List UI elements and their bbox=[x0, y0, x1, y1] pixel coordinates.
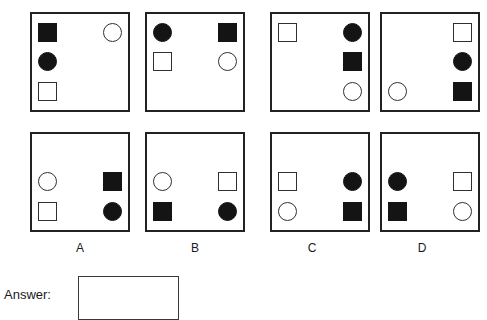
cell-r1c1 bbox=[153, 138, 195, 167]
option-label-b: B bbox=[175, 240, 215, 256]
open-circle-r3c1 bbox=[278, 202, 297, 221]
cell-r3c1 bbox=[278, 77, 320, 106]
cell-r3c1 bbox=[38, 77, 80, 106]
open-circle-r1c2 bbox=[103, 23, 122, 42]
cell-r3c2 bbox=[195, 197, 237, 226]
option-panel-c-grid bbox=[272, 134, 368, 230]
empty-cell-r3c2 bbox=[218, 82, 237, 101]
cell-r2c1 bbox=[153, 167, 195, 196]
answer-label: Answer: bbox=[4, 287, 51, 303]
cell-r3c1 bbox=[388, 77, 430, 106]
cell-r1c2 bbox=[195, 18, 237, 47]
question-panel-3 bbox=[270, 12, 370, 112]
cell-r3c2 bbox=[430, 197, 472, 226]
open-square-r2c2 bbox=[218, 172, 237, 191]
cell-r2c2 bbox=[320, 167, 362, 196]
cell-r1c1 bbox=[38, 138, 80, 167]
empty-cell-r3c2 bbox=[103, 82, 122, 101]
empty-cell-r1c1 bbox=[388, 23, 407, 42]
empty-cell-r1c1 bbox=[38, 143, 57, 162]
option-panel-a-grid bbox=[32, 134, 128, 230]
open-circle-r2c1 bbox=[153, 172, 172, 191]
cell-r2c1 bbox=[278, 167, 320, 196]
cell-r2c1 bbox=[153, 47, 195, 76]
filled-square-r3c2 bbox=[343, 202, 362, 221]
open-circle-r3c2 bbox=[343, 82, 362, 101]
open-circle-r3c2 bbox=[453, 202, 472, 221]
option-panel-c[interactable] bbox=[270, 132, 370, 232]
cell-r1c2 bbox=[80, 18, 122, 47]
cell-r3c2 bbox=[195, 77, 237, 106]
cell-r1c2 bbox=[430, 138, 472, 167]
cell-r2c1 bbox=[278, 47, 320, 76]
cell-r1c2 bbox=[320, 18, 362, 47]
cell-r3c1 bbox=[153, 197, 195, 226]
cell-r3c1 bbox=[278, 197, 320, 226]
option-panel-d[interactable] bbox=[380, 132, 480, 232]
filled-square-r3c2 bbox=[453, 82, 472, 101]
open-square-r2c1 bbox=[278, 172, 297, 191]
filled-circle-r2c1 bbox=[388, 172, 407, 191]
filled-circle-r2c1 bbox=[38, 52, 57, 71]
open-square-r3c1 bbox=[38, 202, 57, 221]
cell-r2c1 bbox=[38, 47, 80, 76]
option-panel-b[interactable] bbox=[145, 132, 245, 232]
empty-cell-r2c1 bbox=[388, 52, 407, 71]
cell-r3c1 bbox=[38, 197, 80, 226]
filled-circle-r3c2 bbox=[103, 202, 122, 221]
empty-cell-r1c2 bbox=[453, 143, 472, 162]
answer-input-box[interactable] bbox=[78, 276, 179, 320]
question-panel-1-grid bbox=[32, 14, 128, 110]
empty-cell-r1c1 bbox=[153, 143, 172, 162]
cell-r1c2 bbox=[430, 18, 472, 47]
question-panel-2 bbox=[145, 12, 245, 112]
cell-r1c2 bbox=[80, 138, 122, 167]
option-label-a: A bbox=[60, 240, 100, 256]
filled-circle-r2c2 bbox=[343, 172, 362, 191]
empty-cell-r1c2 bbox=[103, 143, 122, 162]
filled-square-r2c2 bbox=[343, 52, 362, 71]
cell-r3c1 bbox=[153, 77, 195, 106]
cell-r2c2 bbox=[195, 167, 237, 196]
filled-square-r1c2 bbox=[218, 23, 237, 42]
open-circle-r2c1 bbox=[38, 172, 57, 191]
option-label-d: D bbox=[402, 240, 442, 256]
cell-r1c2 bbox=[320, 138, 362, 167]
cell-r2c1 bbox=[388, 47, 430, 76]
cell-r1c1 bbox=[153, 18, 195, 47]
cell-r3c2 bbox=[320, 197, 362, 226]
empty-cell-r1c2 bbox=[343, 143, 362, 162]
question-panel-4 bbox=[380, 12, 480, 112]
option-panel-row bbox=[0, 132, 487, 234]
cell-r3c2 bbox=[430, 77, 472, 106]
filled-circle-r1c2 bbox=[343, 23, 362, 42]
question-panel-4-grid bbox=[382, 14, 478, 110]
open-square-r1c1 bbox=[278, 23, 297, 42]
filled-circle-r2c2 bbox=[453, 52, 472, 71]
open-square-r2c2 bbox=[453, 172, 472, 191]
filled-circle-r1c1 bbox=[153, 23, 172, 42]
filled-square-r1c1 bbox=[38, 23, 57, 42]
option-panel-a[interactable] bbox=[30, 132, 130, 232]
empty-cell-r2c1 bbox=[278, 52, 297, 71]
cell-r3c2 bbox=[80, 197, 122, 226]
empty-cell-r1c1 bbox=[388, 143, 407, 162]
cell-r3c1 bbox=[388, 197, 430, 226]
cell-r1c1 bbox=[388, 18, 430, 47]
empty-cell-r1c2 bbox=[218, 143, 237, 162]
cell-r2c2 bbox=[195, 47, 237, 76]
question-panel-2-grid bbox=[147, 14, 243, 110]
cell-r2c2 bbox=[430, 47, 472, 76]
cell-r1c2 bbox=[195, 138, 237, 167]
filled-square-r2c2 bbox=[103, 172, 122, 191]
filled-square-r3c1 bbox=[388, 202, 407, 221]
open-square-r2c1 bbox=[153, 52, 172, 71]
empty-cell-r1c1 bbox=[278, 143, 297, 162]
cell-r1c1 bbox=[38, 18, 80, 47]
open-square-r1c2 bbox=[453, 23, 472, 42]
open-square-r3c1 bbox=[38, 82, 57, 101]
option-label-row: A B C D bbox=[0, 240, 487, 258]
open-circle-r2c2 bbox=[218, 52, 237, 71]
question-panel-row bbox=[0, 12, 487, 114]
